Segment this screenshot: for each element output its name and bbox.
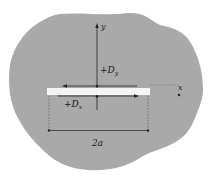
dimension-left-dot bbox=[48, 129, 50, 131]
y-axis-label: y bbox=[100, 22, 106, 31]
lower-origin-dot bbox=[96, 95, 99, 98]
crack-length-label: 2a bbox=[91, 138, 103, 148]
crack-diagram: y x +Dy +Dx 2a bbox=[0, 0, 212, 179]
x-axis-label: x bbox=[178, 83, 183, 92]
upper-origin-dot bbox=[96, 85, 99, 88]
dimension-right-dot bbox=[147, 129, 149, 131]
crack bbox=[47, 88, 150, 95]
x-axis-end-dot bbox=[178, 94, 180, 96]
